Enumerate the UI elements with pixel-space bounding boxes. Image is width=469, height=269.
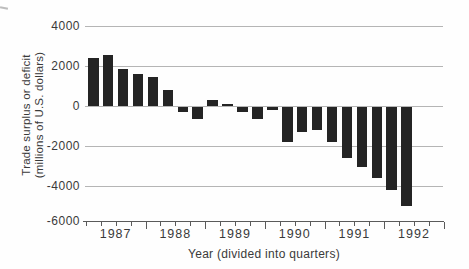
bar-1989-Q3: [237, 107, 248, 112]
x-tick-year-boundary: [205, 222, 206, 229]
bar-1988-Q1: [148, 77, 159, 106]
bar-1987-Q4: [133, 74, 144, 106]
x-tick-quarter: [429, 222, 430, 226]
bar-1990-Q2: [282, 107, 293, 142]
bar-1988-Q2: [163, 90, 174, 106]
x-axis-title: Year (divided into quarters): [154, 247, 374, 261]
bar-1987-Q2: [103, 55, 114, 106]
bar-1990-Q3: [297, 107, 308, 132]
bar-1990-Q4: [312, 107, 323, 130]
trade-balance-bar-chart: Trade surplus or deficit (millions of U.…: [0, 0, 469, 269]
bar-1992-Q2: [401, 107, 412, 206]
x-tick-quarter: [399, 222, 400, 226]
page-edge-mark: [0, 6, 8, 10]
x-tick-year-boundary: [146, 222, 147, 229]
x-tick-quarter: [160, 222, 161, 226]
y-tick-label-2000: 2000: [30, 60, 80, 73]
x-tick-quarter: [354, 222, 355, 226]
x-tick-quarter: [250, 222, 251, 226]
y-tick-label--6000: -6000: [30, 215, 80, 228]
bar-1987-Q1: [88, 58, 99, 106]
y-tick-label-0: 0: [30, 100, 80, 113]
x-tick-quarter: [369, 222, 370, 226]
x-tick-quarter: [235, 222, 236, 226]
x-tick-quarter: [414, 222, 415, 226]
bar-1991-Q3: [357, 107, 368, 167]
x-year-label-1989: 1989: [213, 227, 257, 241]
x-tick-quarter: [116, 222, 117, 226]
x-tick-quarter: [101, 222, 102, 226]
bar-1988-Q4: [192, 107, 203, 119]
x-tick-quarter: [86, 222, 87, 226]
bar-1989-Q2: [222, 104, 233, 106]
bar-1991-Q4: [372, 107, 383, 178]
x-tick-quarter: [190, 222, 191, 226]
x-year-label-1991: 1991: [332, 227, 376, 241]
x-tick-year-boundary: [325, 222, 326, 229]
bar-1992-Q1: [386, 107, 397, 190]
x-tick-quarter: [220, 222, 221, 226]
x-year-label-1987: 1987: [94, 227, 138, 241]
y-tick-label--4000: -4000: [30, 180, 80, 193]
x-tick-quarter: [131, 222, 132, 226]
bar-1991-Q1: [327, 107, 338, 142]
x-tick-quarter: [295, 222, 296, 226]
y-tick-label-4000: 4000: [30, 20, 80, 33]
bar-1989-Q1: [207, 100, 218, 106]
x-year-label-1988: 1988: [153, 227, 197, 241]
x-year-label-1990: 1990: [273, 227, 317, 241]
x-year-label-1992: 1992: [392, 227, 436, 241]
bar-1991-Q2: [342, 107, 353, 158]
x-tick-year-boundary: [265, 222, 266, 229]
x-tick-quarter: [310, 222, 311, 226]
gridline-4000: [85, 26, 443, 27]
gridline-2000: [85, 66, 443, 67]
x-tick-year-boundary: [444, 222, 445, 229]
bar-1988-Q3: [178, 107, 189, 112]
bar-1990-Q1: [267, 107, 278, 110]
x-axis-line: [83, 221, 444, 222]
bar-1987-Q3: [118, 69, 129, 106]
x-tick-quarter: [175, 222, 176, 226]
x-tick-year-boundary: [384, 222, 385, 229]
x-tick-quarter: [339, 222, 340, 226]
y-tick-label--2000: -2000: [30, 140, 80, 153]
bar-1989-Q4: [252, 107, 263, 119]
x-tick-quarter: [280, 222, 281, 226]
